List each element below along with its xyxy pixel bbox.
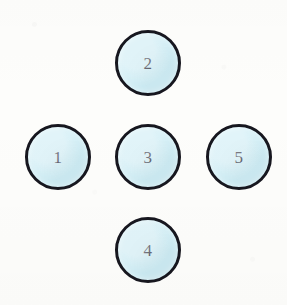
circle-node-2[interactable]: 2: [115, 30, 181, 96]
diagram-canvas: 2 1 3 5 4: [0, 0, 287, 305]
circle-node-4[interactable]: 4: [115, 217, 181, 283]
circle-node-2-label: 2: [144, 55, 153, 72]
circle-node-1[interactable]: 1: [25, 124, 91, 190]
circle-node-1-label: 1: [54, 149, 63, 166]
circle-node-3[interactable]: 3: [115, 124, 181, 190]
circle-node-4-label: 4: [144, 242, 153, 259]
circle-node-5-label: 5: [235, 149, 244, 166]
circle-node-3-label: 3: [144, 149, 153, 166]
circle-node-5[interactable]: 5: [206, 124, 272, 190]
